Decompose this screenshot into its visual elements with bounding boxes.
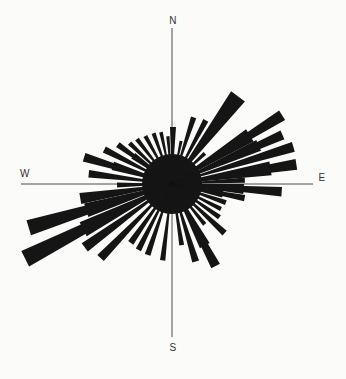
compass-label-east: E [318,173,325,183]
compass-label-north: N [169,16,177,26]
rose-diagram-figure: N E S W [0,0,346,379]
compass-label-south: S [169,343,176,353]
compass-label-west: W [20,169,30,179]
rose-diagram-canvas [0,0,346,379]
